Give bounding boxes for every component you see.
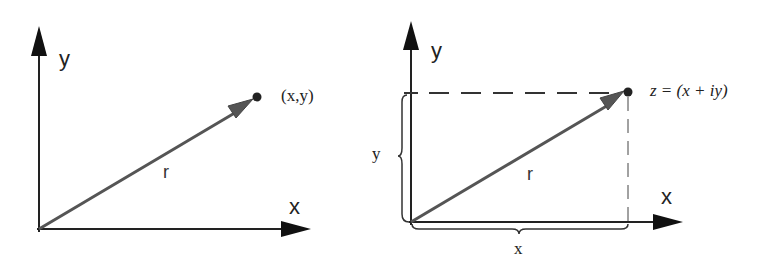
right-vector-r (411, 104, 610, 222)
left-y-axis-label: y (59, 48, 70, 70)
right-x-axis-arrow-icon (653, 214, 683, 230)
y-component-label: y (372, 145, 381, 162)
right-y-axis-label: y (431, 40, 442, 62)
right-x-axis-label: x (661, 186, 672, 208)
diagram-graphics (0, 0, 762, 268)
left-x-axis-label: x (289, 196, 300, 218)
x-component-label: x (514, 240, 523, 257)
figure: y x r (x,y) y x r z = (x + iy) y x (0, 0, 762, 268)
right-point-label: z = (x + iy) (650, 82, 728, 99)
left-x-axis-arrow-icon (281, 221, 311, 237)
left-vector-r (39, 111, 238, 229)
right-y-axis-arrow-icon (403, 21, 419, 50)
x-component-brace-icon (412, 224, 628, 234)
y-component-brace-icon (398, 95, 409, 222)
left-point-dot (253, 93, 262, 102)
left-vector-label: r (163, 163, 169, 181)
left-point-label: (x,y) (281, 87, 314, 104)
right-point-dot (624, 88, 633, 97)
right-vector-label: r (527, 165, 533, 183)
left-diagram (31, 26, 311, 237)
left-y-axis-arrow-icon (31, 26, 47, 56)
